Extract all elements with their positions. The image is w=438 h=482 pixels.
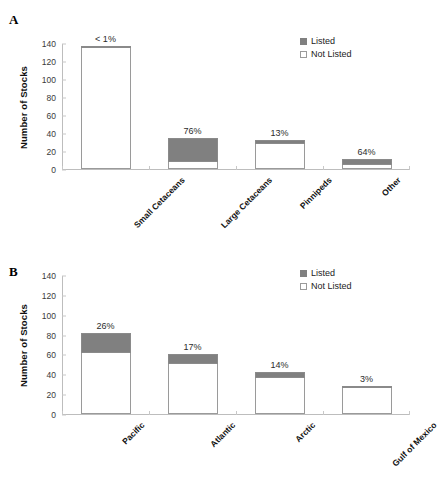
panel-b-y-axis-title: Number of Stocks bbox=[18, 304, 29, 387]
legend-swatch-not-listed-icon bbox=[300, 51, 307, 58]
bar-segment-listed bbox=[81, 333, 131, 354]
bar-pinnipeds[interactable]: 13% bbox=[255, 140, 305, 169]
x-axis-label-pinnipeds: Pinnipeds bbox=[297, 175, 333, 211]
bar-segment-listed bbox=[81, 46, 131, 48]
x-axis-label-other: Other bbox=[379, 175, 402, 198]
panel-b-legend: Listed Not Listed bbox=[300, 268, 352, 294]
y-axis-tick-mark bbox=[62, 116, 66, 117]
bar-segment-listed bbox=[168, 354, 218, 364]
bar-arctic[interactable]: 14% bbox=[255, 372, 305, 414]
panel-a-y-axis-title: Number of Stocks bbox=[18, 66, 29, 149]
x-axis-tick-mark bbox=[323, 411, 324, 415]
x-axis-label-pacific: Pacific bbox=[120, 420, 146, 446]
y-axis-tick-mark bbox=[62, 80, 66, 81]
x-axis-tick-mark bbox=[62, 166, 63, 170]
panel-b-plot-area: 02040608010012014026%17%14%3% bbox=[62, 276, 410, 415]
bar-other[interactable]: 64% bbox=[342, 159, 392, 169]
y-axis-tick-label: 20 bbox=[47, 147, 62, 157]
y-axis-tick-mark bbox=[62, 276, 66, 277]
bar-atlantic[interactable]: 17% bbox=[168, 354, 218, 414]
y-axis-tick-mark bbox=[62, 395, 66, 396]
y-axis-tick-mark bbox=[62, 98, 66, 99]
x-axis-tick-mark bbox=[409, 411, 410, 415]
y-axis-tick-label: 80 bbox=[47, 331, 62, 341]
bar-segment-listed bbox=[255, 372, 305, 378]
legend-label-listed: Listed bbox=[311, 36, 335, 46]
y-axis-tick-label: 120 bbox=[42, 57, 62, 67]
y-axis-tick-label: 60 bbox=[47, 350, 62, 360]
bar-data-label: 17% bbox=[183, 342, 201, 352]
bar-segment-listed bbox=[342, 386, 392, 388]
panel-b-label: B bbox=[9, 264, 18, 280]
y-axis-tick-mark bbox=[62, 152, 66, 153]
y-axis-tick-label: 120 bbox=[42, 291, 62, 301]
legend-label-not-listed: Not Listed bbox=[311, 281, 352, 291]
y-axis-tick-label: 80 bbox=[47, 93, 62, 103]
bar-data-label: 14% bbox=[270, 360, 288, 370]
x-axis-tick-mark bbox=[149, 166, 150, 170]
panel-a-legend: Listed Not Listed bbox=[300, 36, 352, 62]
y-axis-tick-label: 20 bbox=[47, 390, 62, 400]
y-axis-tick-mark bbox=[62, 44, 66, 45]
y-axis-tick-mark bbox=[62, 355, 66, 356]
chart-panel-a: A Number of Stocks 020406080100120140< 1… bbox=[0, 0, 427, 250]
y-axis-tick-mark bbox=[62, 335, 66, 336]
y-axis-tick-label: 140 bbox=[42, 39, 62, 49]
bar-data-label: 26% bbox=[96, 321, 114, 331]
x-axis-tick-mark bbox=[323, 166, 324, 170]
legend-swatch-listed-icon bbox=[300, 38, 307, 45]
x-axis-label-small-cetaceans: Small Cetaceans bbox=[131, 175, 186, 230]
bar-small-cetaceans[interactable]: < 1% bbox=[81, 46, 131, 169]
legend-item-not-listed: Not Listed bbox=[300, 49, 352, 59]
y-axis-tick-label: 40 bbox=[47, 129, 62, 139]
y-axis-tick-label: 100 bbox=[42, 311, 62, 321]
legend-swatch-not-listed-icon bbox=[300, 283, 307, 290]
x-axis-label-arctic: Arctic bbox=[293, 420, 317, 444]
x-axis-tick-mark bbox=[149, 411, 150, 415]
panel-a-label: A bbox=[9, 12, 18, 28]
y-axis-tick-mark bbox=[62, 62, 66, 63]
y-axis-tick-label: 0 bbox=[51, 410, 62, 420]
x-axis-tick-mark bbox=[409, 166, 410, 170]
y-axis-tick-mark bbox=[62, 134, 66, 135]
y-axis-tick-label: 40 bbox=[47, 370, 62, 380]
x-axis-label-gulf-of-mexico: Gulf of Mexico bbox=[390, 420, 438, 468]
bar-segment-listed bbox=[168, 138, 218, 161]
bar-large-cetaceans[interactable]: 76% bbox=[168, 138, 218, 169]
legend-label-not-listed: Not Listed bbox=[311, 49, 352, 59]
panel-a-plot-area: 020406080100120140< 1%76%13%64% bbox=[62, 44, 410, 170]
bar-segment-listed bbox=[255, 140, 305, 144]
x-axis-label-large-cetaceans: Large Cetaceans bbox=[218, 175, 273, 230]
x-axis-label-atlantic: Atlantic bbox=[208, 420, 237, 449]
legend-item-listed: Listed bbox=[300, 268, 352, 278]
bar-pacific[interactable]: 26% bbox=[81, 333, 131, 414]
y-axis-tick-mark bbox=[62, 315, 66, 316]
y-axis-tick-label: 140 bbox=[42, 271, 62, 281]
legend-swatch-listed-icon bbox=[300, 270, 307, 277]
y-axis-tick-label: 0 bbox=[51, 165, 62, 175]
legend-item-not-listed: Not Listed bbox=[300, 281, 352, 291]
y-axis-tick-label: 100 bbox=[42, 75, 62, 85]
y-axis-tick-mark bbox=[62, 375, 66, 376]
bar-data-label: 3% bbox=[360, 374, 373, 384]
chart-panel-b: B Number of Stocks 02040608010012014026%… bbox=[0, 252, 427, 482]
bar-data-label: < 1% bbox=[95, 34, 116, 44]
bar-data-label: 13% bbox=[270, 128, 288, 138]
legend-label-listed: Listed bbox=[311, 268, 335, 278]
y-axis-tick-label: 60 bbox=[47, 111, 62, 121]
x-axis-tick-mark bbox=[236, 166, 237, 170]
bar-segment-listed bbox=[342, 159, 392, 165]
y-axis-tick-mark bbox=[62, 295, 66, 296]
bar-gulf-of-mexico[interactable]: 3% bbox=[342, 386, 392, 414]
legend-item-listed: Listed bbox=[300, 36, 352, 46]
bar-data-label: 64% bbox=[357, 147, 375, 157]
bar-data-label: 76% bbox=[183, 126, 201, 136]
x-axis-tick-mark bbox=[236, 411, 237, 415]
x-axis-tick-mark bbox=[62, 411, 63, 415]
